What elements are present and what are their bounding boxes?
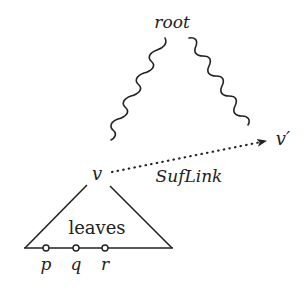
node-v-label: v — [92, 163, 102, 184]
leaf-label-p: p — [41, 254, 52, 274]
root-label: root — [154, 12, 190, 32]
wavy-edge-root-to-v — [111, 38, 166, 140]
leaf-node-p — [43, 245, 49, 251]
suffix-link-diagram: root v v′ SufLink leaves p q r — [0, 0, 308, 292]
subtree-leaves-label: leaves — [68, 217, 125, 238]
wavy-edge-root-to-v-prime — [189, 38, 249, 125]
leaf-node-q — [73, 245, 79, 251]
node-v-prime-label: v′ — [276, 128, 290, 149]
leaf-label-q: q — [71, 254, 82, 274]
suffix-link-label: SufLink — [156, 166, 223, 186]
leaf-label-r: r — [101, 254, 110, 274]
leaf-node-r — [102, 245, 108, 251]
